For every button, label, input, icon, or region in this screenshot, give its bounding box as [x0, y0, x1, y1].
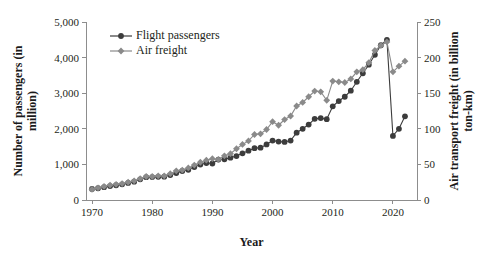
y-axis-right-tick-label: 0 — [424, 194, 430, 206]
x-axis-tick-label: 2010 — [322, 206, 345, 218]
data-point — [336, 98, 342, 104]
series-line — [92, 40, 405, 189]
data-point — [239, 141, 246, 148]
y-axis-left-tick-label: 3,000 — [54, 87, 79, 99]
legend-label: Air freight — [136, 43, 188, 57]
data-point — [335, 78, 342, 85]
y-axis-left-title: Number of passengers (inmillion) — [11, 45, 39, 176]
series-line — [92, 42, 405, 189]
y-axis-left-tick-label: 4,000 — [54, 52, 79, 64]
data-point — [312, 116, 318, 122]
x-axis-tick-label: 2000 — [262, 206, 285, 218]
data-point — [396, 126, 402, 132]
data-point — [294, 130, 300, 136]
data-point — [137, 175, 144, 182]
data-point — [209, 155, 216, 162]
data-point — [264, 142, 270, 148]
data-point — [306, 122, 312, 128]
data-point — [89, 186, 96, 193]
data-point — [149, 173, 156, 180]
data-point — [240, 150, 246, 156]
chart-figure: 01,0002,0003,0004,0005,00005010015020025… — [0, 0, 490, 261]
data-point — [329, 78, 336, 85]
x-axis-tick-label: 2020 — [382, 206, 405, 218]
y-axis-right-tick-label: 250 — [424, 16, 441, 28]
data-point — [300, 126, 306, 132]
y-axis-left-tick-label: 5,000 — [54, 16, 79, 28]
data-point — [330, 103, 336, 109]
x-axis-tick-label: 1970 — [81, 206, 104, 218]
data-point — [95, 184, 102, 191]
data-point — [287, 113, 294, 120]
data-point — [342, 94, 348, 100]
data-point — [288, 138, 294, 144]
x-axis-title: Year — [240, 235, 265, 249]
data-point — [324, 116, 330, 122]
data-point — [143, 173, 150, 180]
y-axis-right-tick-label: 100 — [424, 123, 441, 135]
data-point — [252, 145, 258, 151]
data-point — [258, 145, 264, 151]
data-point — [119, 180, 126, 187]
data-point — [270, 138, 276, 144]
y-axis-right-tick-label: 50 — [424, 158, 436, 170]
y-axis-right-title-line: ton-km) — [461, 90, 475, 131]
dual-axis-line-chart: 01,0002,0003,0004,0005,00005010015020025… — [0, 0, 490, 261]
data-point — [234, 153, 240, 159]
y-axis-left-title-line: million) — [25, 91, 39, 131]
y-axis-right-title-line: Air transport freight (in billion — [447, 31, 461, 190]
legend-marker-diamond — [118, 48, 125, 55]
chart-legend: Flight passengersAir freight — [110, 28, 220, 57]
y-axis-right-tick-label: 200 — [424, 52, 441, 64]
x-axis-tick-label: 1990 — [201, 206, 224, 218]
data-point — [341, 79, 348, 86]
data-point — [282, 139, 288, 145]
data-point — [323, 97, 330, 104]
data-point — [317, 88, 324, 95]
data-point — [390, 133, 396, 139]
data-point — [293, 103, 300, 110]
data-point — [348, 88, 354, 94]
legend-marker-circle — [118, 33, 124, 39]
data-point — [318, 115, 324, 121]
data-point — [246, 148, 252, 154]
y-axis-left-tick-label: 1,000 — [54, 158, 79, 170]
data-point — [354, 79, 360, 85]
series-air-freight — [89, 39, 409, 193]
data-point — [101, 183, 108, 190]
y-axis-left-tick-label: 0 — [74, 194, 80, 206]
data-point — [276, 139, 282, 145]
series-layer — [89, 37, 409, 193]
y-axis-right-title: Air transport freight (in billionton-km) — [447, 31, 475, 190]
legend-label: Flight passengers — [136, 28, 220, 42]
data-point — [125, 179, 132, 186]
data-point — [402, 113, 408, 119]
series-flight-passengers — [89, 37, 408, 192]
y-axis-left-tick-label: 2,000 — [54, 123, 79, 135]
data-point — [257, 130, 264, 137]
y-axis-left-title-line: Number of passengers (in — [11, 45, 25, 176]
x-axis-tick-label: 1980 — [141, 206, 164, 218]
y-axis-right-tick-label: 150 — [424, 87, 441, 99]
